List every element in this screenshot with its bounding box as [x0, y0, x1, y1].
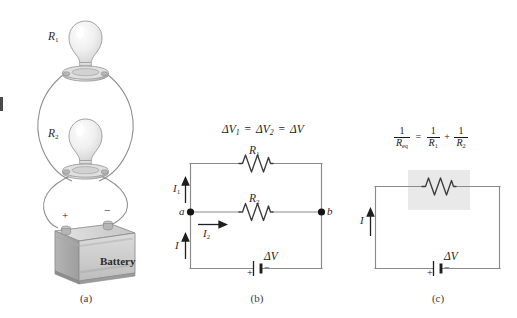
battery-terminal-plus: + — [62, 210, 68, 221]
battery-plus-c: + — [427, 268, 433, 278]
battery-symbol-c — [434, 261, 442, 276]
label-battery-deltav-b: ΔV — [264, 251, 278, 263]
bulb-r1 — [63, 21, 109, 81]
label-current-i-c: I — [360, 215, 364, 226]
battery-text-label: Battery — [100, 256, 135, 267]
battery-minus-b: − — [264, 263, 270, 273]
caption-panel-c: (c) — [422, 292, 454, 304]
panel-a-artwork — [38, 21, 135, 284]
node-b-dot — [318, 208, 325, 215]
resistor-highlight-box — [408, 170, 470, 210]
label-node-b: b — [327, 206, 333, 217]
node-a-dot — [187, 208, 194, 215]
circuit-artwork — [0, 0, 517, 318]
equation-panel-c: 1 Req = 1 R1 + 1 R2 — [394, 126, 468, 149]
battery-minus-c: − — [444, 263, 450, 273]
label-node-a: a — [179, 206, 185, 217]
label-resistor-r2: R2 — [249, 193, 260, 206]
panel-b-artwork — [182, 155, 325, 276]
caption-panel-b: (b) — [241, 292, 273, 304]
caption-panel-a: (a) — [70, 292, 102, 304]
label-current-i1: I1 — [173, 183, 180, 196]
bulb-r2 — [63, 119, 109, 179]
label-current-i: I — [175, 240, 179, 251]
label-resistor-r1: R1 — [249, 145, 260, 158]
figure-parallel-resistors: R1 R2 + − Battery (a) ΔV1 = ΔV2 = ΔV R1 … — [0, 0, 517, 318]
battery-symbol-b — [254, 261, 262, 276]
battery-terminal-minus: − — [104, 205, 110, 216]
battery-plus-b: + — [247, 268, 253, 278]
label-battery-deltav-c: ΔV — [444, 251, 458, 263]
current-arrow-i1 — [182, 178, 189, 204]
current-arrow-i-c — [367, 209, 374, 237]
panel-c-artwork — [367, 170, 500, 276]
label-current-i2: I2 — [203, 228, 210, 241]
label-bulb-r1: R1 — [48, 31, 59, 44]
label-bulb-r2: R2 — [48, 128, 59, 141]
current-arrow-i — [182, 234, 189, 260]
equation-panel-b: ΔV1 = ΔV2 = ΔV — [222, 124, 304, 137]
battery-illustration — [55, 221, 135, 284]
